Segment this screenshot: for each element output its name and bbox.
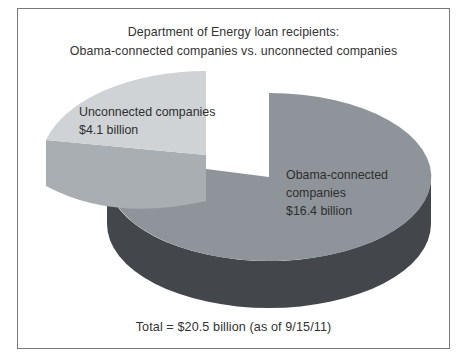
unconnected-slice-label-value: $4.1 billion [79, 121, 215, 139]
obama-connected-slice-label: Obama-connected companies $16.4 billion [286, 166, 388, 220]
total-caption: Total = $20.5 billion (as of 9/15/11) [18, 320, 449, 334]
obama-connected-slice-label-value: $16.4 billion [286, 202, 388, 220]
chart-frame: Department of Energy loan recipients: Ob… [17, 8, 450, 349]
unconnected-slice-label: Unconnected companies $4.1 billion [79, 103, 215, 139]
unconnected-slice-label-name: Unconnected companies [79, 103, 215, 121]
chart-image: Department of Energy loan recipients: Ob… [0, 0, 468, 361]
obama-connected-slice-label-name-line1: Obama-connected [286, 166, 388, 184]
obama-connected-slice-label-name-line2: companies [286, 184, 388, 202]
